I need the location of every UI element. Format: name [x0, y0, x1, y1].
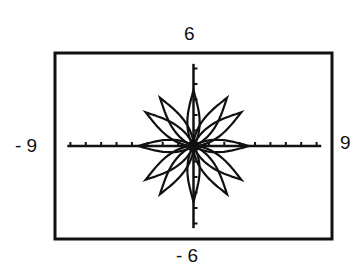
polar-rose-plot [0, 0, 360, 273]
diagonal-petal [146, 146, 194, 180]
diagonal-petal [194, 146, 242, 180]
center-hub [188, 140, 200, 152]
diagonal-petal [194, 112, 242, 146]
diagonal-petal [146, 112, 194, 146]
